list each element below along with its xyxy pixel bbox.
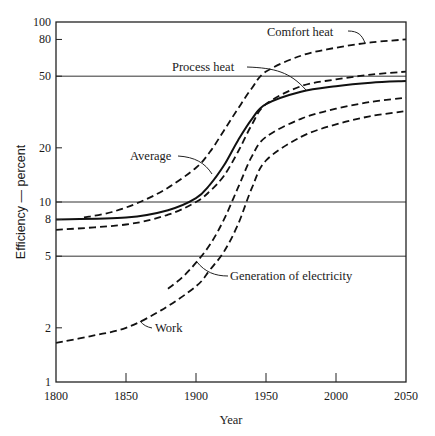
leader-line bbox=[140, 321, 152, 328]
x-axis-ticks: 180018501900195020002050 bbox=[44, 373, 418, 403]
label-process-heat: Process heat bbox=[172, 60, 235, 74]
y-tick-label: 2 bbox=[45, 321, 51, 335]
y-tick-label: 10 bbox=[39, 195, 51, 209]
label-work: Work bbox=[155, 321, 183, 335]
annotation-leader-lines bbox=[140, 31, 365, 328]
x-tick-label: 2050 bbox=[394, 389, 418, 403]
y-tick-label: 8 bbox=[45, 212, 51, 226]
y-tick-label: 100 bbox=[33, 15, 51, 29]
y-tick-label: 80 bbox=[39, 32, 51, 46]
x-tick-label: 2000 bbox=[324, 389, 348, 403]
leader-line bbox=[178, 156, 212, 174]
y-tick-label: 5 bbox=[45, 249, 51, 263]
x-axis-title: Year bbox=[219, 413, 243, 427]
curve-average bbox=[56, 81, 406, 219]
y-tick-label: 50 bbox=[39, 69, 51, 83]
y-axis-title: Efficiency — percent bbox=[14, 144, 28, 259]
leader-line bbox=[247, 67, 306, 90]
leader-line bbox=[197, 262, 228, 276]
gridlines bbox=[56, 76, 406, 256]
label-generation-of-electricity: Generation of electricity bbox=[230, 269, 353, 283]
y-tick-label: 1 bbox=[45, 375, 51, 389]
y-axis-ticks: 125810205080100 bbox=[33, 15, 62, 389]
y-tick-label: 20 bbox=[39, 141, 51, 155]
x-tick-label: 1950 bbox=[254, 389, 278, 403]
x-tick-label: 1850 bbox=[114, 389, 138, 403]
label-comfort-heat: Comfort heat bbox=[267, 25, 334, 39]
x-tick-label: 1900 bbox=[184, 389, 208, 403]
leader-line bbox=[348, 31, 365, 43]
label-average: Average bbox=[130, 149, 172, 163]
curves bbox=[56, 39, 406, 343]
efficiency-chart: 125810205080100 180018501900195020002050… bbox=[0, 0, 435, 436]
curve-work bbox=[56, 111, 406, 343]
x-tick-label: 1800 bbox=[44, 389, 68, 403]
